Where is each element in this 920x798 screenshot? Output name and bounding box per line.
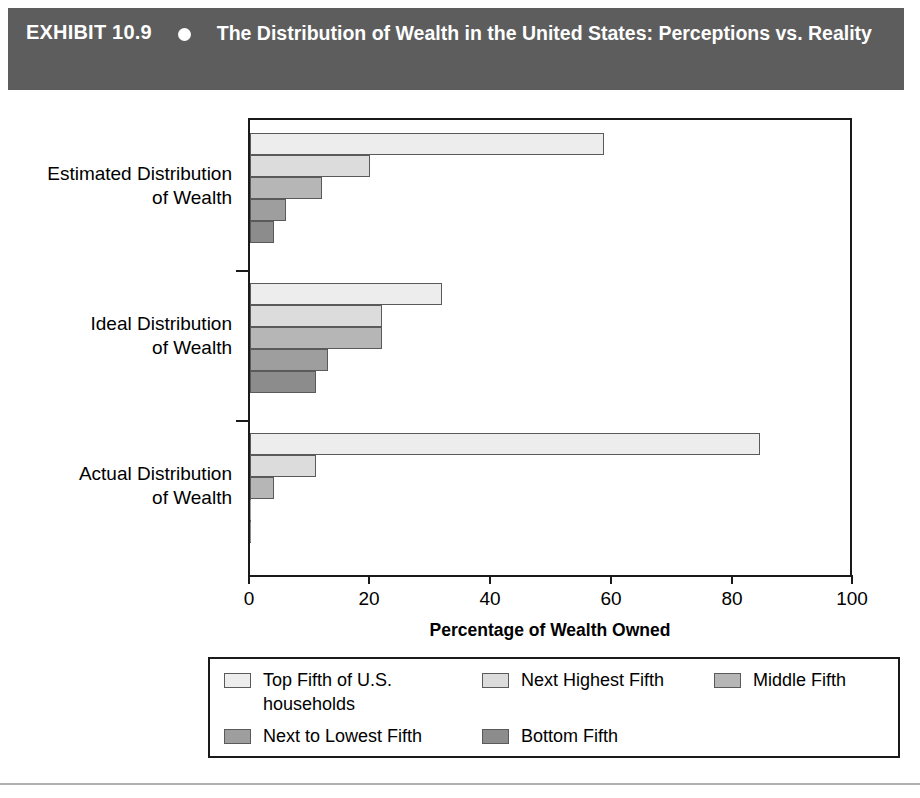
- category-label-ideal-line2: of Wealth: [0, 336, 232, 360]
- category-label-estimated-line1: Estimated Distribution: [0, 162, 232, 186]
- bar: [250, 199, 286, 221]
- legend-item-next-to-lowest-fifth: Next to Lowest Fifth: [224, 725, 474, 749]
- bar-group-ideal: [250, 283, 850, 393]
- exhibit-title: The Distribution of Wealth in the United…: [217, 20, 872, 47]
- bar: [250, 455, 316, 477]
- legend-swatch-top-fifth: [224, 673, 251, 688]
- x-tick-label-20: 20: [334, 588, 404, 610]
- x-tick-label-80: 80: [697, 588, 767, 610]
- bar: [250, 521, 251, 543]
- category-label-ideal: Ideal Distribution of Wealth: [0, 312, 232, 361]
- bar: [250, 177, 322, 199]
- category-label-actual-line1: Actual Distribution: [0, 462, 232, 486]
- bar: [250, 433, 760, 455]
- x-tick-label-100: 100: [817, 588, 887, 610]
- x-tick-80: [731, 575, 733, 584]
- x-tick-label-40: 40: [455, 588, 525, 610]
- category-label-estimated-line2: of Wealth: [0, 186, 232, 210]
- bar-row: [250, 199, 850, 221]
- x-axis-title: Percentage of Wealth Owned: [248, 620, 852, 641]
- category-label-ideal-line1: Ideal Distribution: [0, 312, 232, 336]
- legend-label-middle-fifth: Middle Fifth: [753, 669, 846, 693]
- exhibit-number-label: EXHIBIT 10.9: [26, 20, 152, 44]
- group-separator-tick-2: [236, 420, 248, 422]
- bar-row: [250, 349, 850, 371]
- bar: [250, 283, 442, 305]
- bar-row: [250, 477, 850, 499]
- legend-label-next-to-lowest-fifth: Next to Lowest Fifth: [263, 725, 422, 749]
- bar-row: [250, 499, 850, 521]
- bar-group-actual: [250, 433, 850, 543]
- bar-row: [250, 305, 850, 327]
- legend-swatch-middle-fifth: [714, 673, 741, 688]
- x-tick-40: [489, 575, 491, 584]
- legend-label-bottom-fifth: Bottom Fifth: [521, 725, 618, 749]
- bar: [250, 155, 370, 177]
- bar-row: [250, 155, 850, 177]
- bar: [250, 305, 382, 327]
- bar-row: [250, 455, 850, 477]
- x-tick-60: [610, 575, 612, 584]
- legend-swatch-next-to-lowest-fifth: [224, 729, 251, 744]
- bar-row: [250, 521, 850, 543]
- legend-item-next-highest-fifth: Next Highest Fifth: [482, 669, 712, 693]
- legend-item-middle-fifth: Middle Fifth: [714, 669, 894, 693]
- bullet-dot-icon: [178, 28, 191, 41]
- x-tick-label-0: 0: [214, 588, 284, 610]
- legend-item-top-fifth: Top Fifth of U.S. households: [224, 669, 474, 717]
- x-tick-0: [248, 575, 250, 584]
- bar-row: [250, 327, 850, 349]
- legend-swatch-bottom-fifth: [482, 729, 509, 744]
- plot-area: [248, 118, 852, 577]
- bar-row: [250, 371, 850, 393]
- bar-row: [250, 433, 850, 455]
- x-axis-line: [248, 575, 852, 577]
- legend-swatch-next-highest-fifth: [482, 673, 509, 688]
- chart-legend: Top Fifth of U.S. households Next Highes…: [208, 657, 900, 758]
- bar: [250, 349, 328, 371]
- exhibit-header-banner: EXHIBIT 10.9 The Distribution of Wealth …: [8, 8, 904, 90]
- bar-row: [250, 221, 850, 243]
- legend-label-next-highest-fifth: Next Highest Fifth: [521, 669, 664, 693]
- bar-row: [250, 133, 850, 155]
- bar: [250, 133, 604, 155]
- group-separator-tick-1: [236, 270, 248, 272]
- bars-container: [250, 120, 850, 575]
- legend-item-bottom-fifth: Bottom Fifth: [482, 725, 712, 749]
- x-tick-20: [368, 575, 370, 584]
- exhibit-header-row: EXHIBIT 10.9 The Distribution of Wealth …: [26, 20, 886, 47]
- bar-row: [250, 283, 850, 305]
- x-tick-label-60: 60: [576, 588, 646, 610]
- category-label-actual: Actual Distribution of Wealth: [0, 462, 232, 511]
- category-label-actual-line2: of Wealth: [0, 486, 232, 510]
- chart-figure: Estimated Distribution of Wealth Ideal D…: [0, 96, 920, 656]
- bar: [250, 499, 251, 521]
- x-tick-100: [851, 575, 853, 584]
- bar: [250, 221, 274, 243]
- category-label-estimated: Estimated Distribution of Wealth: [0, 162, 232, 211]
- bar-row: [250, 177, 850, 199]
- bar: [250, 477, 274, 499]
- bar: [250, 327, 382, 349]
- legend-label-top-fifth: Top Fifth of U.S. households: [263, 669, 392, 717]
- bar: [250, 371, 316, 393]
- bar-group-estimated: [250, 133, 850, 243]
- page-bottom-rule: [0, 783, 920, 785]
